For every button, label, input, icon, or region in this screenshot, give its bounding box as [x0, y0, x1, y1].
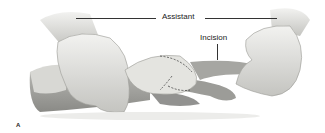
assistant-leader-right	[205, 18, 277, 19]
assistant-leader-left	[76, 18, 156, 19]
incision-leader	[217, 44, 218, 60]
label-incision: Incision	[200, 34, 227, 42]
panel-letter: A	[16, 122, 20, 128]
assistant-right-hand	[236, 26, 302, 96]
label-assistant: Assistant	[162, 13, 194, 21]
